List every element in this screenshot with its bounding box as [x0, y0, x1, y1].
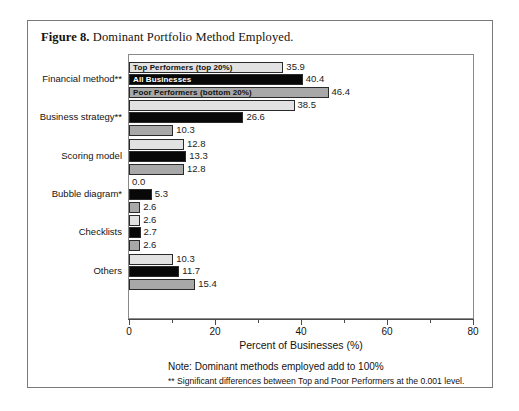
- bar[interactable]: [129, 112, 243, 123]
- bar[interactable]: [129, 164, 184, 175]
- bar-value-label: 10.3: [176, 253, 195, 265]
- x-tick-major: [215, 319, 216, 325]
- x-tick-label: 80: [467, 326, 478, 337]
- figure-caption: Figure 8. Dominant Portfolio Method Empl…: [41, 30, 294, 45]
- legend-item-0: Top Performers (top 20%): [133, 62, 233, 73]
- figure-title: Dominant Portfolio Method Employed.: [93, 30, 294, 44]
- bar-value-label: 35.9: [286, 61, 305, 73]
- figure-label: Figure 8.: [41, 30, 90, 44]
- bar-value-label: 40.4: [306, 73, 325, 85]
- bar-value-label: 15.4: [198, 278, 217, 290]
- x-tick-minor: [430, 319, 431, 323]
- bar-value-label: 46.4: [332, 86, 351, 98]
- plot-inner: Top Performers (top 20%)35.9All Business…: [129, 55, 473, 318]
- x-tick-major: [301, 319, 302, 325]
- bar[interactable]: [129, 189, 152, 200]
- footnote-significance: ** Significant differences between Top a…: [168, 376, 464, 386]
- bar-value-label: 12.8: [187, 163, 206, 175]
- category-label: Financial method**: [26, 73, 122, 84]
- bar-value-label: 12.8: [187, 138, 206, 150]
- bar[interactable]: [129, 151, 186, 162]
- bar-value-label: 5.3: [155, 188, 168, 200]
- bar[interactable]: [129, 227, 141, 238]
- bar-value-label: 11.7: [182, 265, 200, 277]
- bar-value-label: 10.3: [176, 124, 195, 136]
- bar-value-label: 26.6: [246, 111, 265, 123]
- bar[interactable]: [129, 266, 179, 277]
- category-label: Others: [26, 265, 122, 276]
- bar-value-label: 2.7: [144, 226, 157, 238]
- bar[interactable]: [129, 125, 173, 136]
- bar[interactable]: [129, 100, 295, 111]
- x-tick-major: [473, 319, 474, 325]
- category-label: Bubble diagram*: [26, 188, 122, 199]
- x-tick-minor: [344, 319, 345, 323]
- x-tick-label: 20: [209, 326, 220, 337]
- footnote-note: Note: Dominant methods employed add to 1…: [168, 361, 384, 372]
- category-label: Business strategy**: [26, 111, 122, 122]
- x-axis-title: Percent of Businesses (%): [128, 339, 474, 351]
- legend-item-2: Poor Performers (bottom 20%): [133, 87, 252, 98]
- x-tick-minor: [172, 319, 173, 323]
- x-tick-label: 40: [295, 326, 306, 337]
- x-tick-major: [387, 319, 388, 325]
- legend-item-1: All Businesses: [133, 74, 191, 85]
- x-tick-label: 60: [381, 326, 392, 337]
- plot-area: Top Performers (top 20%)35.9All Business…: [128, 54, 474, 319]
- bar-value-label: 2.6: [143, 239, 156, 251]
- bar-value-label: 2.6: [143, 214, 156, 226]
- bar[interactable]: [129, 254, 173, 265]
- figure-container: Figure 8. Dominant Portfolio Method Empl…: [27, 20, 493, 388]
- bar[interactable]: [129, 202, 140, 213]
- bar-value-label: 2.6: [143, 201, 156, 213]
- bar-value-label: 38.5: [298, 99, 317, 111]
- x-tick-major: [129, 319, 130, 325]
- bar-value-label: 0.0: [132, 176, 145, 188]
- x-tick-label: 0: [126, 326, 132, 337]
- bar[interactable]: [129, 139, 184, 150]
- category-label: Scoring model: [26, 150, 122, 161]
- bar[interactable]: [129, 240, 140, 251]
- bar[interactable]: [129, 279, 195, 290]
- x-tick-minor: [258, 319, 259, 323]
- bar[interactable]: [129, 215, 140, 226]
- bar-value-label: 13.3: [189, 150, 208, 162]
- category-label: Checklists: [26, 226, 122, 237]
